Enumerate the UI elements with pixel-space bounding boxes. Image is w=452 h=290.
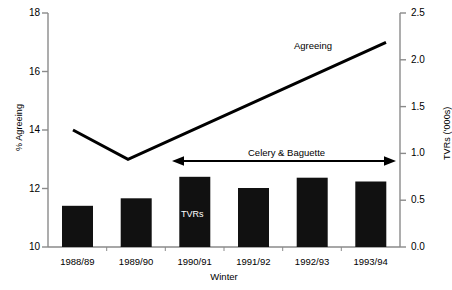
x-tick-1989-90: 1989/90 bbox=[107, 256, 166, 267]
arrow-head-right bbox=[384, 156, 396, 166]
x-tick-1990-91: 1990/91 bbox=[165, 256, 224, 267]
x-axis-title: Winter bbox=[194, 271, 254, 282]
line-series-agreeing bbox=[73, 42, 386, 159]
celery-baguette-label: Celery & Baguette bbox=[248, 147, 325, 158]
left-tick-18: 18 bbox=[24, 7, 40, 18]
left-axis-ticks bbox=[42, 13, 48, 247]
left-tick-12: 12 bbox=[24, 183, 40, 194]
x-tick-1988-89: 1988/89 bbox=[48, 256, 107, 267]
right-tick-2-5: 2.5 bbox=[411, 7, 425, 18]
right-tick-0-5: 0.5 bbox=[411, 194, 425, 205]
x-tick-1993-94: 1993/94 bbox=[341, 256, 400, 267]
right-tick-1-0: 1.0 bbox=[411, 147, 425, 158]
tvrs-inbar-label: TVRs bbox=[181, 209, 204, 219]
bar-1991-92 bbox=[238, 188, 269, 247]
left-tick-14: 14 bbox=[24, 124, 40, 135]
x-tick-1991-92: 1991/92 bbox=[224, 256, 283, 267]
bar-1988-89 bbox=[62, 206, 93, 247]
right-tick-1-5: 1.5 bbox=[411, 101, 425, 112]
left-axis-title: % Agreeing bbox=[14, 104, 24, 151]
bar-1992-93 bbox=[297, 178, 328, 247]
bar-1993-94 bbox=[355, 182, 386, 248]
bar-series-tvrs bbox=[62, 177, 386, 247]
left-tick-16: 16 bbox=[24, 66, 40, 77]
bar-1989-90 bbox=[121, 198, 152, 247]
right-tick-2-0: 2.0 bbox=[411, 54, 425, 65]
x-tick-1992-93: 1992/93 bbox=[283, 256, 342, 267]
left-tick-10: 10 bbox=[24, 241, 40, 252]
agreeing-label: Agreeing bbox=[294, 40, 332, 51]
right-tick-0-0: 0.0 bbox=[411, 241, 425, 252]
right-axis-title: TVRs ('000s) bbox=[442, 107, 452, 160]
arrow-head-left bbox=[172, 156, 184, 166]
right-axis-ticks bbox=[400, 13, 406, 247]
